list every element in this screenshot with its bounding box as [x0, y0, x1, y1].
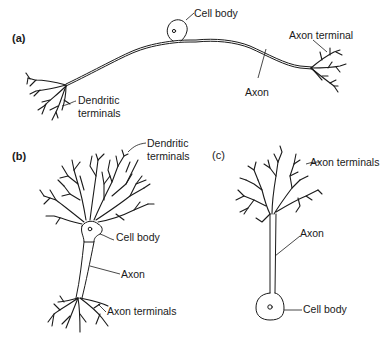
panel-b-cell-body-leader	[100, 234, 114, 240]
panel-b-axon-leader	[90, 266, 120, 274]
panel-c-axon-shape	[270, 214, 276, 293]
panel-a-dendritic-label-line1: Dendritic	[78, 94, 119, 106]
panel-b-cell-body-shape	[81, 221, 102, 242]
panel-b-dendritic-label-line1: Dendritic	[147, 137, 188, 149]
panel-b-axon-terminals-shape	[48, 296, 108, 332]
panel-a-axon-terminal-shape	[311, 48, 346, 92]
panel-c-cell-body-shape	[256, 293, 284, 320]
panel-b-axon-label: Axon	[121, 268, 145, 280]
panel-a-axon-terminal-label: Axon terminal	[289, 29, 353, 41]
panel-b-dendritic-label-line2: terminals	[147, 150, 190, 162]
panel-a: (a)	[12, 7, 353, 120]
panel-b: (b)	[12, 137, 190, 332]
panel-a-cell-body-leader	[186, 13, 194, 20]
panel-c-cell-body-label: Cell body	[303, 303, 348, 315]
panel-c-axon-leader	[275, 236, 300, 256]
panel-b-axon-shape	[76, 242, 94, 298]
panel-b-label: (b)	[12, 150, 26, 162]
panel-a-axon-terminal-leader	[313, 40, 327, 52]
panel-a-dendritic-terminals-shape	[26, 73, 70, 120]
panel-b-axon-terminals-leader	[98, 304, 106, 312]
panel-c-axon-terminals-label: Axon terminals	[310, 156, 379, 168]
panel-a-axon-label: Axon	[245, 86, 269, 98]
panel-a-label: (a)	[12, 32, 26, 44]
neuron-types-diagram: (a)	[0, 0, 385, 339]
panel-c-label: (c)	[212, 149, 225, 161]
panel-a-cell-body-shape	[167, 20, 187, 41]
panel-b-dendritic-tree-shape	[40, 150, 154, 224]
panel-a-cell-body-label: Cell body	[194, 7, 239, 19]
panel-b-cell-body-label: Cell body	[116, 231, 161, 243]
panel-a-dendritic-label-line2: terminals	[78, 107, 121, 119]
panel-c-axon-label: Axon	[300, 227, 324, 239]
panel-a-axon-shape	[66, 39, 312, 86]
panel-c: (c)	[212, 146, 379, 320]
panel-b-dendritic-leader	[128, 143, 146, 152]
panel-b-axon-terminals-label: Axon terminals	[107, 305, 176, 317]
